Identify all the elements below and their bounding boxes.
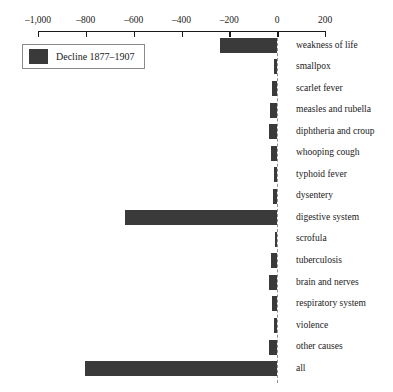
x-axis-tick (277, 31, 278, 37)
x-axis-tick-labels: –1,000–800–600–400–2000200 (0, 15, 393, 27)
bar-row: scarlet fever (0, 78, 393, 100)
plot-area: weakness of lifesmallpoxscarlet fevermea… (0, 33, 393, 383)
bar-row: digestive system (0, 207, 393, 229)
x-axis-tick (86, 31, 87, 37)
cropped-title-sliver (70, 0, 330, 2)
bar-row: tuberculosis (0, 250, 393, 272)
bar-row: whooping cough (0, 142, 393, 164)
bar (271, 146, 277, 161)
category-label: brain and nerves (296, 276, 359, 289)
bar-row: all (0, 358, 393, 380)
category-label: scarlet fever (296, 82, 343, 95)
category-label: all (296, 362, 306, 375)
category-label: scrofula (296, 232, 327, 245)
category-label: dysentery (296, 189, 333, 202)
bar-row: diphtheria and croup (0, 121, 393, 143)
category-label: smallpox (296, 60, 331, 73)
category-label: diphtheria and croup (296, 125, 375, 138)
x-axis-tick (325, 31, 326, 37)
category-label: tuberculosis (296, 254, 342, 267)
x-axis-tick-label: –200 (220, 15, 239, 25)
bar (275, 232, 277, 247)
chart-legend: Decline 1877–1907 (22, 44, 145, 69)
bar (272, 81, 277, 96)
bar-row: violence (0, 315, 393, 337)
x-axis-tick-label: –1,000 (25, 15, 51, 25)
x-axis-tick (38, 31, 39, 37)
x-axis-tick (134, 31, 135, 37)
bar (274, 318, 277, 333)
x-axis-tick (229, 31, 230, 37)
bar (272, 296, 277, 311)
category-label: typhoid fever (296, 168, 347, 181)
category-label: digestive system (296, 211, 359, 224)
bar (274, 167, 277, 182)
bar (273, 189, 277, 204)
bar-row: brain and nerves (0, 272, 393, 294)
legend-label-decline: Decline 1877–1907 (56, 51, 135, 62)
bar (271, 253, 277, 268)
x-axis-tick-label: 0 (275, 15, 280, 25)
legend-swatch-decline (29, 49, 48, 64)
bar-row: typhoid fever (0, 164, 393, 186)
x-axis-tick-label: 200 (318, 15, 332, 25)
category-label: respiratory system (296, 297, 366, 310)
bar (269, 124, 278, 139)
bar-row: scrofula (0, 228, 393, 250)
x-axis-tick (182, 31, 183, 37)
bar-row: measles and rubella (0, 99, 393, 121)
bar-row: dysentery (0, 185, 393, 207)
category-label: violence (296, 319, 328, 332)
category-label: measles and rubella (296, 103, 371, 116)
bar-chart: –1,000–800–600–400–2000200 weakness of l… (0, 0, 393, 392)
bar (270, 103, 277, 118)
bar (85, 361, 278, 376)
bar-row: respiratory system (0, 293, 393, 315)
x-axis-tick-label: –600 (124, 15, 143, 25)
category-label: other causes (296, 340, 343, 353)
x-axis-tick-label: –800 (76, 15, 95, 25)
category-label: whooping cough (296, 146, 360, 159)
bar (125, 210, 277, 225)
category-label: weakness of life (296, 39, 358, 52)
x-axis-tick-label: –400 (172, 15, 191, 25)
bar (274, 59, 277, 74)
bar (269, 340, 277, 355)
bar-row: other causes (0, 336, 393, 358)
bar (220, 38, 277, 53)
bar (269, 275, 277, 290)
